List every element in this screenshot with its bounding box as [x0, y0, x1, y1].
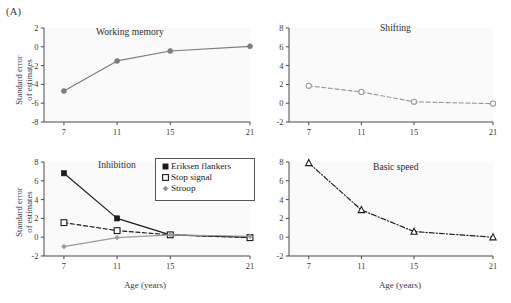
svg-text:2: 2 [279, 80, 283, 89]
legend-item-label: Eriksen flankers [171, 161, 231, 172]
legend-item-label: Stroop [171, 183, 196, 194]
svg-text:8: 8 [279, 24, 283, 33]
svg-text:15: 15 [166, 128, 174, 137]
svg-text:6: 6 [34, 177, 38, 186]
chart-title-working-memory: Working memory [96, 26, 164, 37]
legend-item-stroop: Stroop [159, 183, 249, 194]
svg-text:7: 7 [62, 128, 66, 137]
svg-text:8: 8 [34, 158, 38, 167]
svg-text:7: 7 [307, 128, 311, 137]
svg-text:11: 11 [357, 128, 365, 137]
svg-text:6: 6 [279, 43, 283, 52]
svg-text:4: 4 [279, 196, 284, 205]
x-axis-title-inhibition: Age (years) [40, 280, 250, 290]
svg-text:2: 2 [34, 24, 38, 33]
svg-text:0: 0 [279, 233, 283, 242]
svg-text:15: 15 [166, 262, 174, 271]
chart-working-memory: Standard error of estimates Working memo… [0, 12, 256, 145]
y-axis-title-line2: of estimates [24, 162, 34, 262]
svg-text:15: 15 [410, 128, 418, 137]
legend-item-stop-signal: Stop signal [159, 172, 249, 183]
x-axis-title-basic-speed: Age (years) [295, 280, 505, 290]
svg-text:21: 21 [246, 128, 254, 137]
svg-text:6: 6 [279, 177, 283, 186]
svg-text:0: 0 [34, 233, 38, 242]
chart-title-shifting: Shifting [380, 22, 411, 33]
chart-basic-speed: Basic speed 86420-27111521 Age (years) [255, 152, 511, 303]
svg-text:15: 15 [410, 262, 418, 271]
legend-item-eriksen-flankers: Eriksen flankers [159, 161, 249, 172]
svg-text:2: 2 [34, 214, 38, 223]
filled-square-icon [159, 161, 171, 172]
svg-text:21: 21 [489, 128, 497, 137]
y-axis-title-inhibition: Standard error of estimates [14, 162, 34, 262]
chart-shifting: Shifting 86420-27111521 [255, 12, 511, 145]
svg-text:11: 11 [113, 128, 121, 137]
svg-text:4: 4 [34, 196, 39, 205]
svg-text:7: 7 [62, 262, 66, 271]
figure-panel-a: (A) Standard error of estimates Working … [0, 0, 511, 303]
svg-text:21: 21 [489, 262, 497, 271]
chart-title-inhibition: Inhibition [98, 159, 136, 170]
svg-text:2: 2 [279, 214, 283, 223]
chart-inhibition: Standard error of estimates Inhibition 8… [0, 152, 256, 303]
y-axis-title-line1: Standard error [14, 30, 24, 130]
chart-title-basic-speed: Basic speed [373, 161, 419, 172]
svg-text:-2: -2 [277, 252, 284, 261]
svg-text:0: 0 [279, 99, 283, 108]
svg-text:8: 8 [279, 158, 283, 167]
svg-text:21: 21 [246, 262, 254, 271]
y-axis-title-working-memory: Standard error of estimates [14, 30, 34, 130]
svg-text:-2: -2 [277, 118, 284, 127]
legend-item-label: Stop signal [171, 172, 212, 183]
svg-text:4: 4 [279, 62, 284, 71]
svg-text:11: 11 [113, 262, 121, 271]
open-square-icon [159, 172, 171, 183]
y-axis-title-line1: Standard error [14, 162, 24, 262]
svg-text:11: 11 [357, 262, 365, 271]
small-diamond-icon [159, 183, 171, 194]
svg-text:7: 7 [307, 262, 311, 271]
svg-text:0: 0 [34, 43, 38, 52]
legend-inhibition: Eriksen flankersStop signalStroop [155, 158, 255, 201]
y-axis-title-line2: of estimates [24, 30, 34, 130]
